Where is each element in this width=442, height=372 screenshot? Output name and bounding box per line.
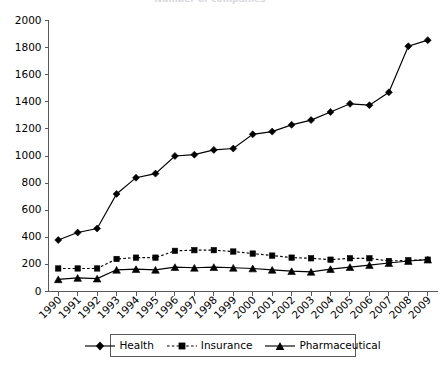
series-point-insurance — [289, 255, 294, 260]
series-point-insurance — [367, 256, 372, 261]
legend-label-health: Health — [119, 340, 153, 351]
legend-item-pharmaceutical[interactable]: Pharmaceutical — [265, 340, 380, 352]
legend-label-insurance: Insurance — [201, 340, 253, 351]
y-tick-label: 1200 — [15, 122, 42, 134]
series-point-insurance — [133, 255, 138, 260]
chart-legend: Health Insurance Pharmaceutical — [110, 334, 356, 357]
series-point-health — [385, 89, 392, 96]
series-point-health — [308, 117, 315, 124]
series-point-insurance — [192, 247, 197, 252]
series-point-health — [210, 146, 217, 153]
y-tick-label: 800 — [21, 176, 41, 188]
series-point-insurance — [94, 266, 99, 271]
series-point-health — [346, 100, 353, 107]
series-point-health — [366, 102, 373, 109]
series-point-insurance — [347, 256, 352, 261]
series-point-insurance — [56, 266, 61, 271]
legend-item-insurance[interactable]: Insurance — [167, 340, 253, 352]
series-point-insurance — [153, 255, 158, 260]
series-point-insurance — [231, 249, 236, 254]
series-point-insurance — [328, 257, 333, 262]
pharmaceutical-legend-marker-icon — [265, 340, 295, 352]
series-point-insurance — [269, 253, 274, 258]
x-tick-label: 2009 — [406, 293, 433, 320]
insurance-legend-marker-icon — [167, 340, 197, 352]
series-point-health — [74, 229, 81, 236]
y-tick-label: 200 — [21, 257, 41, 269]
series-point-insurance — [250, 251, 255, 256]
y-tick-label: 1600 — [15, 68, 42, 80]
series-point-health — [424, 37, 431, 44]
y-tick-label: 400 — [21, 230, 41, 242]
health-legend-marker-icon — [85, 340, 115, 352]
series-point-insurance — [114, 256, 119, 261]
legend-label-pharmaceutical: Pharmaceutical — [299, 340, 380, 351]
series-point-health — [405, 43, 412, 50]
plot-area: 0200400600800100012001400160018002000199… — [0, 0, 442, 332]
legend-item-health[interactable]: Health — [85, 340, 153, 352]
series-line-health — [58, 40, 428, 240]
y-tick-label: 600 — [21, 203, 41, 215]
line-chart: Number of companies 02004006008001000120… — [0, 0, 442, 372]
y-tick-label: 1000 — [15, 149, 42, 161]
y-tick-label: 2000 — [15, 14, 42, 26]
y-tick-label: 1400 — [15, 95, 42, 107]
series-point-health — [327, 108, 334, 115]
series-point-health — [94, 225, 101, 232]
series-point-insurance — [75, 266, 80, 271]
series-line-pharmaceutical — [58, 260, 428, 280]
series-point-health — [269, 128, 276, 135]
series-point-insurance — [172, 248, 177, 253]
series-point-health — [55, 237, 62, 244]
y-tick-label: 1800 — [15, 41, 42, 53]
series-point-health — [288, 121, 295, 128]
series-point-insurance — [211, 247, 216, 252]
series-point-health — [191, 151, 198, 158]
y-tick-label: 0 — [35, 285, 42, 297]
series-point-insurance — [308, 256, 313, 261]
